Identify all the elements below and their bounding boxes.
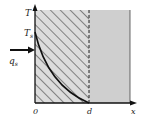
depth-label: d bbox=[87, 107, 92, 116]
gray-region bbox=[89, 10, 130, 103]
horizontal-axis-arrowhead bbox=[130, 101, 137, 106]
x-axis-label: x bbox=[131, 107, 136, 116]
heat-flux-label: qs bbox=[9, 56, 18, 67]
heat-conduction-diagram: T Ts qs 0 d x bbox=[0, 0, 143, 118]
origin-label: 0 bbox=[33, 107, 38, 116]
vertical-axis-arrowhead bbox=[33, 4, 38, 11]
heat-flux-arrowhead bbox=[28, 47, 35, 54]
t-axis-label: T bbox=[25, 8, 32, 18]
surface-temperature-label: Ts bbox=[24, 28, 33, 39]
